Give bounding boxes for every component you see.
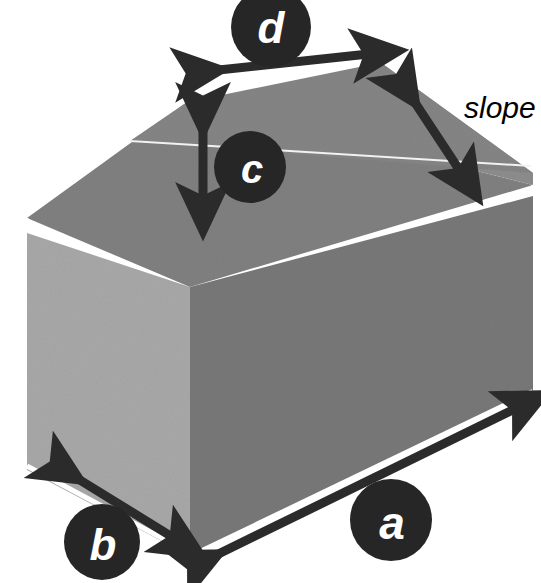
badge-c[interactable]: c <box>214 131 286 203</box>
badge-c-label: c <box>241 147 263 191</box>
house-diagram-svg: d c a b slope <box>0 0 541 583</box>
badge-d-label: d <box>258 3 286 52</box>
badge-b[interactable]: b <box>64 504 140 580</box>
figure-canvas: d c a b slope <box>0 0 541 583</box>
slope-label: slope <box>464 91 536 124</box>
badge-a[interactable]: a <box>350 479 432 561</box>
house-body <box>27 62 533 556</box>
badge-a-label: a <box>379 497 405 549</box>
badge-b-label: b <box>90 520 117 569</box>
